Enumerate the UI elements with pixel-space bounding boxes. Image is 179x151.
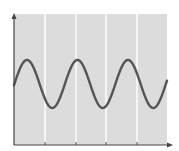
sine-wave-chart [0, 0, 179, 151]
x-axis-arrow-icon [167, 143, 173, 148]
